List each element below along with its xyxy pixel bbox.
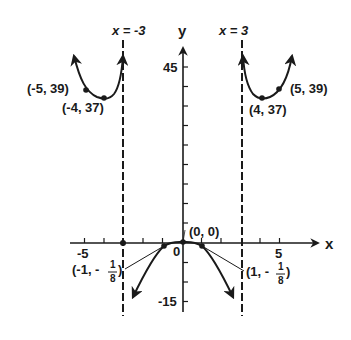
middle-branch-curve: (0, 0) (-1, - 1 8 ) (1, - 1 8 )	[72, 224, 290, 297]
point-asym-left-axis	[120, 240, 126, 246]
y-tick-label-45: 45	[163, 60, 177, 75]
asymptote-left-label: x = -3	[111, 23, 146, 38]
label-neg5-39: (-5, 39)	[27, 81, 69, 96]
label-1-neg1-8: (1, - 1 8 )	[246, 261, 290, 286]
label-neg4-37: (-4, 37)	[62, 100, 104, 115]
asymptote-right-label: x = 3	[218, 23, 249, 38]
rational-function-graph: x -5 5 0 y 45 -15 x = -3 x = 3	[0, 0, 351, 340]
svg-text:1: 1	[278, 261, 284, 272]
svg-text:8: 8	[110, 273, 116, 284]
y-axis-label: y	[178, 22, 187, 39]
x-tick-label-neg5: -5	[77, 246, 89, 261]
y-axis: y 45 -15	[158, 22, 188, 312]
left-branch-curve: (-5, 39) (-4, 37)	[27, 56, 123, 115]
right-branch-curve: (4, 37) (5, 39)	[243, 56, 328, 117]
svg-text:(-1, -: (-1, -	[72, 262, 99, 277]
svg-text:): )	[118, 262, 122, 277]
label-5-39: (5, 39)	[290, 81, 328, 96]
label-4-37: (4, 37)	[249, 102, 287, 117]
label-neg1-neg1-8: (-1, - 1 8 )	[72, 259, 122, 284]
label-0-0: (0, 0)	[189, 224, 219, 239]
y-tick-label-neg15: -15	[158, 294, 177, 309]
x-tick-label-5: 5	[275, 246, 282, 261]
svg-text:): )	[286, 264, 290, 279]
origin-label: 0	[173, 244, 180, 259]
point-4-37	[259, 95, 265, 101]
svg-text:(1, -: (1, -	[246, 264, 269, 279]
svg-text:8: 8	[278, 275, 284, 286]
point-5-39	[276, 86, 282, 92]
x-axis-label: x	[325, 235, 334, 252]
point-neg5-39	[83, 87, 89, 93]
svg-text:1: 1	[110, 259, 116, 270]
